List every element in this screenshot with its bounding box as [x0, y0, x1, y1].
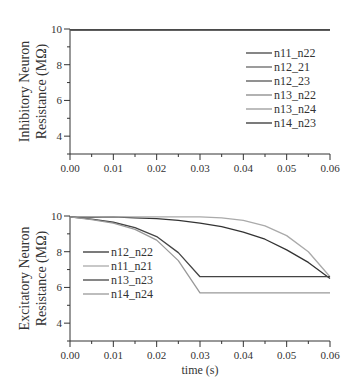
legend-label: n14_n23	[274, 116, 316, 130]
series-line-n11_n21	[70, 217, 330, 277]
legend-label: n11_n21	[111, 259, 153, 273]
x-tick-label: 0.01	[104, 349, 123, 361]
x-tick-label: 0.06	[320, 349, 340, 361]
y-axis-title-line2: Resistance (MΩ)	[34, 230, 50, 326]
y-tick-label: 8	[57, 59, 63, 71]
x-tick-label: 0.03	[190, 349, 210, 361]
x-tick-label: 0.04	[234, 162, 254, 174]
x-tick-label: 0.05	[277, 162, 297, 174]
x-tick-label: 0.01	[104, 162, 123, 174]
x-tick-label: 0.02	[147, 349, 166, 361]
legend-label: n11_n22	[274, 46, 316, 60]
legend-label: n13_n23	[111, 273, 153, 287]
y-axis-title-line1: Inhibitory Neuron	[17, 41, 32, 142]
legend-label: n14_n24	[111, 287, 153, 301]
y-tick-label: 4	[57, 317, 63, 329]
legend-label: n13_n24	[274, 102, 316, 116]
legend-label: n12_21	[274, 60, 310, 74]
series-line-n14_n24	[70, 217, 330, 293]
legend-label: n13_n22	[274, 88, 316, 102]
x-tick-label: 0.02	[147, 162, 166, 174]
excitatory-resistance-chart: 0.000.010.020.030.040.050.0646810Excitat…	[17, 210, 340, 377]
y-tick-label: 6	[57, 94, 63, 106]
series-line-n13_n23	[70, 217, 330, 277]
x-axis-title: time (s)	[182, 363, 219, 377]
series-line-n12_n22	[70, 217, 330, 279]
chart-figure: 0.000.010.020.030.040.050.0646810Inhibit…	[0, 0, 358, 388]
legend-label: n12_23	[274, 74, 310, 88]
legend-label: n12_n22	[111, 245, 153, 259]
x-tick-label: 0.06	[320, 162, 340, 174]
y-tick-label: 6	[57, 281, 63, 293]
inhibitory-resistance-chart: 0.000.010.020.030.040.050.0646810Inhibit…	[17, 23, 340, 174]
y-tick-label: 4	[57, 130, 63, 142]
x-tick-label: 0.05	[277, 349, 297, 361]
x-tick-label: 0.00	[60, 162, 80, 174]
y-tick-label: 8	[57, 246, 63, 258]
x-tick-label: 0.00	[60, 349, 80, 361]
y-tick-label: 10	[51, 23, 63, 35]
y-tick-label: 10	[51, 210, 63, 222]
x-tick-label: 0.03	[190, 162, 210, 174]
x-tick-label: 0.04	[234, 349, 254, 361]
y-axis-title-line1: Excitatory Neuron	[17, 227, 32, 331]
y-axis-title-line2: Resistance (MΩ)	[34, 43, 50, 139]
